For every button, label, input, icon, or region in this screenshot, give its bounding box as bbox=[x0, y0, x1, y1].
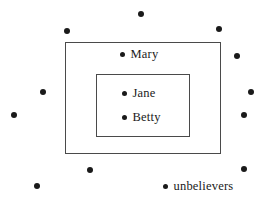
member-dot-icon bbox=[122, 115, 127, 120]
member-betty: Betty bbox=[122, 110, 161, 124]
unbeliever-dot bbox=[248, 89, 254, 95]
member-jane: Jane bbox=[122, 86, 156, 100]
member-dot-icon bbox=[120, 52, 125, 57]
member-dot-icon bbox=[122, 91, 127, 96]
unbeliever-dot bbox=[40, 89, 46, 95]
member-mary: Mary bbox=[120, 47, 159, 61]
unbeliever-dot bbox=[34, 183, 40, 189]
unbeliever-dot bbox=[234, 53, 240, 59]
unbeliever-dot bbox=[241, 166, 247, 172]
member-label: Mary bbox=[131, 48, 159, 61]
member-dot-icon bbox=[163, 184, 168, 189]
unbeliever-dot bbox=[64, 28, 70, 34]
member-label: unbelievers bbox=[174, 180, 234, 193]
unbeliever-dot bbox=[138, 11, 144, 17]
member-unbelievers: unbelievers bbox=[163, 179, 234, 193]
unbeliever-dot bbox=[87, 167, 93, 173]
unbeliever-dot bbox=[11, 112, 17, 118]
member-label: Jane bbox=[133, 87, 156, 100]
inner-set-boundary bbox=[96, 74, 190, 137]
member-label: Betty bbox=[133, 111, 161, 124]
unbeliever-dot bbox=[216, 26, 222, 32]
set-diagram-canvas: MaryJaneBettyunbelievers bbox=[0, 0, 266, 201]
unbeliever-dot bbox=[241, 112, 247, 118]
